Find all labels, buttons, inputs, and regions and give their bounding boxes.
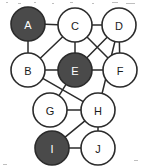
graph-canvas: ACDBEFGHIJ — [0, 0, 145, 168]
graph-node-circle-a[interactable] — [11, 7, 45, 41]
graph-diagram: ACDBEFGHIJ — [0, 0, 145, 168]
graph-node-circle-j[interactable] — [81, 131, 115, 165]
graph-node-circle-i[interactable] — [35, 131, 69, 165]
graph-node-g[interactable]: G — [33, 93, 67, 127]
graph-node-circle-f[interactable] — [103, 53, 137, 87]
graph-node-j[interactable]: J — [81, 131, 115, 165]
graph-node-d[interactable]: D — [102, 8, 136, 42]
graph-edge-b-c — [40, 37, 62, 58]
graph-node-c[interactable]: C — [58, 8, 92, 42]
graph-node-circle-e[interactable] — [58, 53, 92, 87]
graph-node-circle-h[interactable] — [81, 93, 115, 127]
node-layer: ACDBEFGHIJ — [11, 7, 137, 165]
graph-node-circle-c[interactable] — [58, 8, 92, 42]
graph-node-i[interactable]: I — [35, 131, 69, 165]
graph-node-h[interactable]: H — [81, 93, 115, 127]
graph-node-circle-g[interactable] — [33, 93, 67, 127]
graph-node-f[interactable]: F — [103, 53, 137, 87]
graph-node-circle-d[interactable] — [102, 8, 136, 42]
graph-node-b[interactable]: B — [11, 53, 45, 87]
graph-node-a[interactable]: A — [11, 7, 45, 41]
graph-node-circle-b[interactable] — [11, 53, 45, 87]
graph-edge-h-i — [65, 121, 85, 137]
graph-node-e[interactable]: E — [58, 53, 92, 87]
